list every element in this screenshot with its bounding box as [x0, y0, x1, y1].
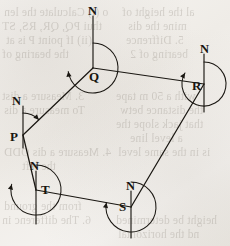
traverse-bearing-figure: o (i) Calculate the lenthui PQ, QR, RS, …: [0, 0, 230, 246]
traverse-drawing: [0, 0, 230, 246]
traverse-leg-pq: [23, 68, 93, 135]
meridian-lines-group: [23, 16, 204, 238]
bearing-arrowhead-p: [33, 114, 38, 120]
traverse-legs-group: [23, 68, 204, 207]
station-label-q: Q: [89, 70, 99, 83]
station-label-s: S: [119, 200, 126, 213]
north-label-r: N: [200, 43, 209, 56]
traverse-leg-st: [36, 190, 131, 207]
north-label-s: N: [126, 180, 135, 193]
bearing-arrowhead-q: [66, 71, 71, 77]
station-label-t: T: [41, 183, 50, 196]
north-label-p: N: [12, 95, 21, 108]
traverse-leg-rs: [131, 84, 204, 207]
station-label-r: R: [192, 79, 201, 92]
bearing-arrowhead-s: [103, 203, 108, 209]
bearing-arrowhead-t: [8, 184, 13, 190]
north-label-q: N: [88, 5, 97, 18]
traverse-leg-qr: [93, 68, 204, 84]
north-label-t: N: [30, 160, 39, 173]
station-label-p: P: [10, 130, 18, 143]
